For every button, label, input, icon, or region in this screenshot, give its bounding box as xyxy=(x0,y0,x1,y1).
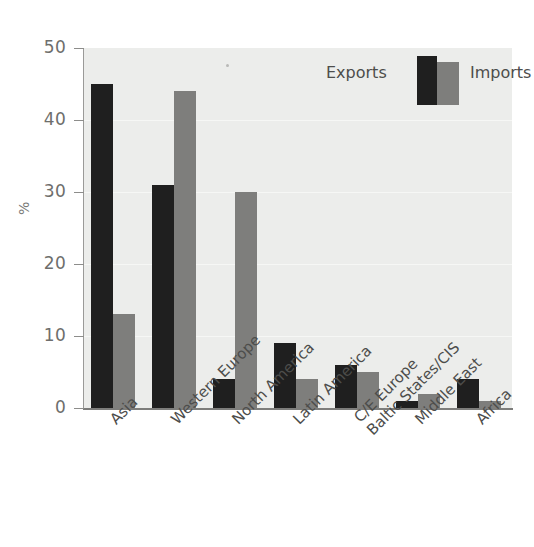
x-label-6: Africa xyxy=(473,386,516,429)
chart-figure: 01020304050 % AsiaWestern EuropeNorth Am… xyxy=(0,0,534,547)
legend-label-imports: Imports xyxy=(470,63,531,82)
legend-swatch-exports xyxy=(417,56,437,105)
legend-label-exports: Exports xyxy=(326,63,387,82)
x-label-line: Asia xyxy=(106,393,141,428)
x-label-line: Africa xyxy=(473,385,516,428)
x-label-0: Asia xyxy=(107,394,142,429)
legend-swatch-imports xyxy=(437,62,459,105)
